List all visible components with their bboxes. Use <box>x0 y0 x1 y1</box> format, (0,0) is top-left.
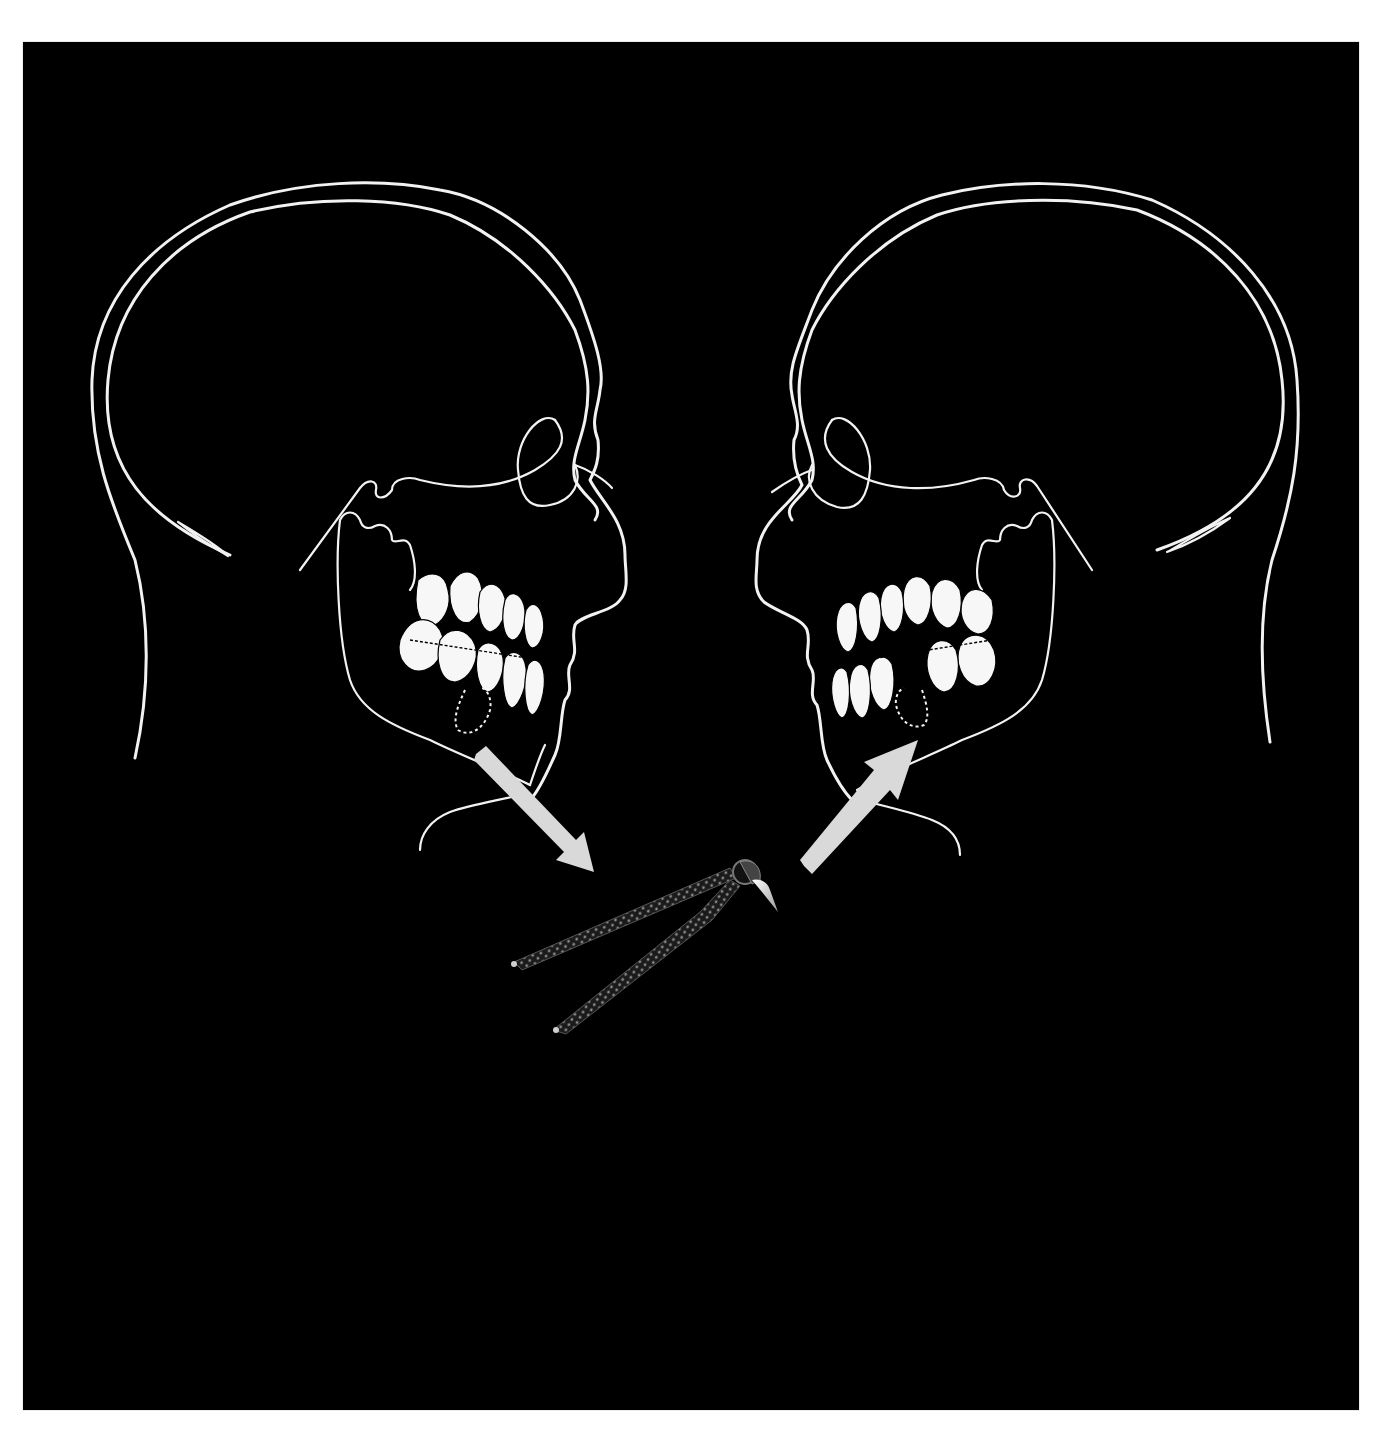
illustration-canvas <box>0 0 1392 1442</box>
forceps-lower-handle <box>553 880 740 1034</box>
left-head <box>92 183 626 850</box>
extraction-forceps-icon <box>511 860 778 1034</box>
right-throat-line <box>862 800 960 855</box>
left-dentition <box>399 572 544 733</box>
arrow-down-right-icon <box>474 746 594 872</box>
right-extraction-site <box>896 688 928 726</box>
left-occipital-notch <box>178 522 228 556</box>
left-cranium-outline <box>107 201 598 555</box>
arrow-left-to-forceps <box>474 746 594 872</box>
left-head-skin-outline <box>92 183 626 800</box>
extracted-tooth-icon <box>752 879 778 912</box>
arrow-forceps-to-right <box>800 740 918 874</box>
right-occipital-notch <box>1167 518 1230 552</box>
right-dentition <box>832 577 996 727</box>
left-extraction-site <box>456 688 491 733</box>
right-head <box>756 184 1298 855</box>
arrow-up-right-icon <box>800 740 918 874</box>
left-throat-line <box>420 795 520 850</box>
